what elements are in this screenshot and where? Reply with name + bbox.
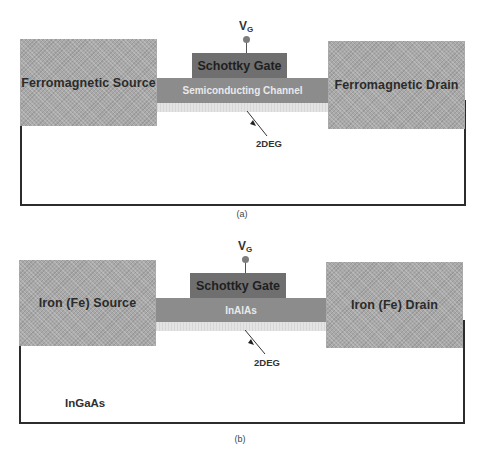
two-deg-arrow-icon: [0, 0, 484, 456]
panel-b: InGaAs InAlAs Schottky Gate VG Iron (Fe)…: [0, 0, 484, 456]
two-deg-label: 2DEG: [254, 357, 280, 368]
caption-b: (b): [220, 434, 260, 444]
